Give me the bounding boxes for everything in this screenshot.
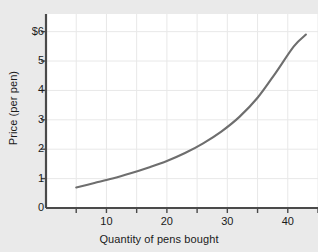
y-tick-label: 1: [24, 173, 44, 184]
y-tick-labels: 012345$6: [20, 0, 44, 252]
plot-canvas: [0, 0, 318, 252]
y-tick-label: 5: [24, 55, 44, 66]
y-tick-label: 0: [24, 202, 44, 213]
y-tick-label: 4: [24, 84, 44, 95]
x-tick-label: 40: [273, 216, 303, 227]
y-tick-label: 3: [24, 114, 44, 125]
y-tick-label: 2: [24, 143, 44, 154]
chart-figure: Price (per pen) Quantity of pens bought …: [0, 0, 318, 252]
x-tick-label: 20: [152, 216, 182, 227]
x-tick-label: 30: [212, 216, 242, 227]
x-tick-label: 10: [91, 216, 121, 227]
x-axis-title: Quantity of pens bought: [0, 233, 318, 245]
y-tick-label: $6: [24, 26, 44, 37]
